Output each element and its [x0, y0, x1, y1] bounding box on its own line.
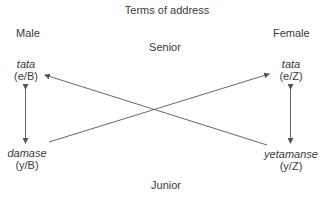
node-top-right-code: (e/Z) — [279, 70, 302, 83]
edge-yetamanse-to-tata-b — [45, 75, 267, 145]
node-top-left-code: (e/B) — [14, 70, 38, 83]
node-bottom-right-code: (y/Z) — [280, 160, 303, 173]
column-label-female: Female — [273, 27, 310, 40]
edge-damase-to-tata-z — [49, 74, 269, 142]
level-label-junior: Junior — [151, 179, 181, 192]
diagram-title: Terms of address — [125, 4, 209, 17]
column-label-male: Male — [16, 27, 40, 40]
level-label-senior: Senior — [149, 41, 181, 54]
node-bottom-left-code: (y/B) — [15, 159, 38, 172]
